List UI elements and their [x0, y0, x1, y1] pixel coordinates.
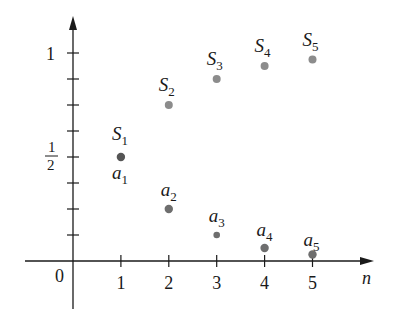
x-tick-label: 5: [308, 273, 317, 293]
partial-sum-label: S2: [159, 74, 175, 99]
y-tick-label-one: 1: [46, 44, 55, 64]
x-axis-label: n: [362, 268, 371, 288]
term-label: a3: [209, 205, 225, 230]
partial-sum-point: [165, 101, 173, 109]
x-tick-label: 2: [164, 273, 173, 293]
partial-sum-point: [213, 75, 221, 83]
x-tick-label: 1: [116, 273, 125, 293]
point-labels: S1S2S3S4S5a1a2a3a4a5: [112, 29, 320, 254]
y-axis-arrow-icon: [69, 16, 77, 30]
term-point: [213, 232, 220, 239]
partial-sum-label: S5: [303, 29, 319, 54]
partial-sum-label: S3: [207, 48, 223, 73]
half-denominator: 2: [47, 157, 55, 173]
series-plot: 1 1 2 0 n 12345 S1S2S3S4S5a1a2a3a4a5: [0, 0, 404, 322]
term-point: [117, 153, 125, 161]
y-tick-label-half: 1 2: [45, 139, 58, 173]
x-tick-label: 4: [260, 273, 269, 293]
x-tick-labels: 12345: [116, 273, 317, 293]
partial-sum-point: [309, 56, 317, 64]
term-label: a4: [257, 219, 274, 244]
x-tick-label: 3: [212, 273, 221, 293]
data-points: [117, 56, 317, 259]
term-label: a5: [304, 229, 320, 254]
term-label: a2: [161, 179, 177, 204]
term-label: a1: [112, 162, 128, 187]
axes: [25, 16, 374, 309]
origin-label: 0: [55, 266, 64, 286]
x-axis-arrow-icon: [360, 257, 374, 265]
partial-sum-label: S4: [255, 35, 272, 60]
term-point: [260, 244, 268, 252]
partial-sum-label: S1: [112, 123, 128, 148]
term-point: [165, 205, 173, 213]
partial-sum-point: [261, 62, 269, 70]
half-numerator: 1: [48, 139, 56, 155]
